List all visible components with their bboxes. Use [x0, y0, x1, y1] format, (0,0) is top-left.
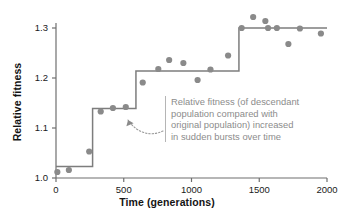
data-point: [54, 169, 60, 175]
data-point: [66, 167, 72, 173]
scatter-points: [54, 14, 324, 175]
y-tick-label: 1.0: [20, 172, 48, 183]
x-tick-label: 0: [36, 184, 76, 195]
x-tick-label: 1500: [239, 184, 279, 195]
annotation-arrow: [126, 120, 163, 134]
annotation-line: population compared with: [171, 108, 329, 120]
data-point: [262, 18, 268, 24]
data-point: [239, 25, 245, 31]
data-point: [195, 77, 201, 83]
data-point: [140, 79, 146, 85]
annotation-line: original population) increased: [171, 119, 329, 131]
x-tick-label: 1000: [172, 184, 212, 195]
y-tick-label: 1.2: [20, 72, 48, 83]
data-point: [123, 104, 129, 110]
data-point: [207, 66, 213, 72]
y-tick-label: 1.3: [20, 22, 48, 33]
data-point: [110, 105, 116, 111]
data-point: [166, 57, 172, 63]
data-point: [265, 25, 271, 31]
x-tick-label: 500: [104, 184, 144, 195]
data-point: [180, 60, 186, 66]
data-point: [155, 66, 161, 72]
data-point: [250, 14, 256, 20]
data-point: [86, 148, 92, 154]
annotation-line: in sudden bursts over time: [171, 131, 329, 143]
annotation-note: Relative fitness (of descendantpopulatio…: [165, 96, 329, 142]
data-point: [318, 30, 324, 36]
y-axis-title: Relative fitness: [11, 47, 23, 157]
x-axis-title: Time (generations): [0, 196, 334, 208]
x-tick-label: 2000: [307, 184, 342, 195]
data-point: [225, 52, 231, 58]
data-point: [274, 25, 280, 31]
data-point: [98, 108, 104, 114]
annotation-line: Relative fitness (of descendant: [171, 96, 329, 108]
data-point: [297, 25, 303, 31]
y-tick-label: 1.1: [20, 122, 48, 133]
x-tick-marks: [56, 178, 327, 182]
data-point: [285, 41, 291, 47]
